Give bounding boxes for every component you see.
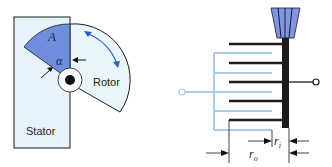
stator-label: Stator (26, 125, 55, 137)
outer-length-label: ro (249, 147, 258, 163)
ro-arrow-left-head (221, 150, 229, 156)
inner-gap-label: ri (274, 134, 281, 150)
angle-label: α (56, 54, 62, 69)
diagram-canvas (0, 0, 332, 167)
ri-arrow-right-head (289, 138, 297, 144)
ro-arrow-right-head (289, 150, 297, 156)
area-label: A (48, 29, 56, 45)
fixed-terminal (179, 89, 185, 95)
rotor-shaft-bar (282, 38, 289, 128)
rotor-label: Rotor (93, 76, 120, 88)
fixed-plates (183, 53, 272, 130)
movable-terminal (313, 79, 319, 85)
rotor-shaft (65, 75, 75, 85)
movable-plates (229, 44, 286, 120)
ri-arrow-left-head (264, 138, 272, 144)
rotor-plate (70, 24, 130, 112)
